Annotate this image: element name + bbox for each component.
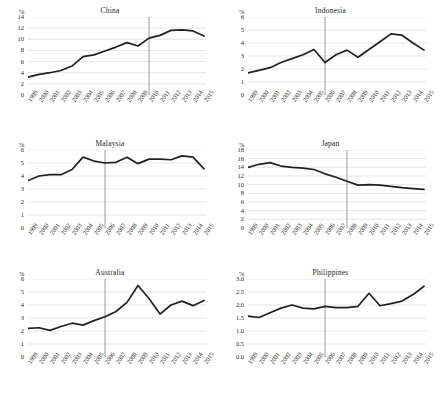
y-axis-tick-label: 0 (220, 92, 244, 99)
chart-svg (28, 279, 206, 358)
y-axis-tick-label: 6 (220, 199, 244, 206)
panel-philippines: Philippines % 0.00.51.01.52.02.53.019992… (220, 262, 441, 395)
chart-svg (28, 150, 206, 229)
y-axis-tick-label: 16 (220, 155, 244, 162)
plot-area (28, 17, 206, 96)
panel-malaysia: Malaysia % 01234561999200020012002200320… (0, 133, 220, 262)
y-axis-tick-label: 4 (0, 302, 24, 309)
panel-title: Indonesia (220, 6, 441, 15)
data-series-line (28, 30, 204, 77)
plot-area (248, 279, 426, 358)
panel-title: Philippines (220, 268, 441, 277)
y-axis-tick-label: 0.0 (220, 354, 244, 361)
panel-australia: Australia % 0123456199920002001200220032… (0, 262, 220, 395)
y-axis-tick-label: 5 (220, 27, 244, 34)
y-axis-tick-label: 3 (0, 315, 24, 322)
panel-title: Malaysia (0, 139, 220, 148)
y-axis-tick-label: 4 (0, 69, 24, 76)
y-axis-tick-label: 0 (220, 225, 244, 232)
y-axis-tick-label: 3.0 (220, 276, 244, 283)
y-axis-tick-label: 14 (0, 14, 24, 21)
y-axis-tick-label: 1 (0, 341, 24, 348)
y-axis-tick-label: 2 (0, 199, 24, 206)
y-axis-tick-label: 2 (0, 81, 24, 88)
data-series-line (248, 286, 424, 317)
y-axis-tick-label: 14 (220, 164, 244, 171)
y-axis-tick-label: 1 (0, 212, 24, 219)
y-axis-tick-label: 6 (0, 58, 24, 65)
y-axis-tick-label: 0 (0, 354, 24, 361)
y-axis-tick-label: 2.0 (220, 302, 244, 309)
y-axis-tick-label: 0 (0, 92, 24, 99)
panel-title: Japan (220, 139, 441, 148)
y-axis-tick-label: 6 (0, 147, 24, 154)
chart-svg (248, 279, 426, 358)
panel-china: China % 02468101214199920002001200220032… (0, 0, 220, 133)
y-axis-tick-label: 3 (220, 53, 244, 60)
plot-area (248, 17, 426, 96)
chart-svg (248, 17, 426, 96)
panel-japan: Japan % 02468101214161819992000200120022… (220, 133, 441, 262)
y-axis-tick-label: 0 (0, 225, 24, 232)
y-axis-tick-label: 1 (220, 79, 244, 86)
y-axis-tick-label: 4 (0, 173, 24, 180)
y-axis-tick-label: 10 (220, 181, 244, 188)
y-axis-tick-label: 3 (0, 186, 24, 193)
chart-svg (28, 17, 206, 96)
y-axis-tick-label: 2 (220, 66, 244, 73)
panel-title: China (0, 6, 220, 15)
chart-grid: China % 02468101214199920002001200220032… (0, 0, 441, 395)
data-series-line (28, 156, 204, 181)
y-axis-tick-label: 4 (220, 40, 244, 47)
chart-svg (248, 150, 426, 229)
y-axis-tick-label: 5 (0, 289, 24, 296)
y-axis-tick-label: 0.5 (220, 341, 244, 348)
y-axis-tick-label: 18 (220, 147, 244, 154)
y-axis-tick-label: 8 (0, 47, 24, 54)
y-axis-tick-label: 6 (0, 276, 24, 283)
y-axis-tick-label: 5 (0, 160, 24, 167)
panel-title: Australia (0, 268, 220, 277)
plot-area (248, 150, 426, 229)
y-axis-tick-label: 12 (0, 25, 24, 32)
y-axis-tick-label: 2.5 (220, 289, 244, 296)
plot-area (28, 150, 206, 229)
plot-area (28, 279, 206, 358)
y-axis-tick-label: 4 (220, 207, 244, 214)
y-axis-tick-label: 10 (0, 36, 24, 43)
y-axis-tick-label: 2 (220, 216, 244, 223)
y-axis-tick-label: 1.0 (220, 328, 244, 335)
y-axis-tick-label: 1.5 (220, 315, 244, 322)
y-axis-tick-label: 6 (220, 14, 244, 21)
data-series-line (248, 34, 424, 73)
panel-indonesia: Indonesia % 0123456199920002001200220032… (220, 0, 441, 133)
y-axis-tick-label: 2 (0, 328, 24, 335)
y-axis-tick-label: 12 (220, 173, 244, 180)
y-axis-tick-label: 8 (220, 190, 244, 197)
